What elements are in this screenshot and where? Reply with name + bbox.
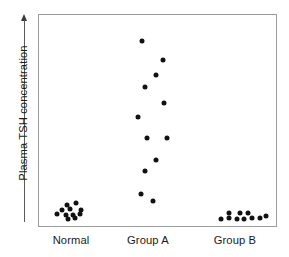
data-point <box>150 199 155 204</box>
x-axis-labels: NormalGroup AGroup B <box>38 234 277 254</box>
y-axis-label: Plasma TSH concentration <box>17 13 29 213</box>
data-point <box>67 207 72 212</box>
data-point <box>140 38 145 43</box>
data-point <box>161 101 166 106</box>
scatter-plot-figure: Plasma TSH concentration NormalGroup AGr… <box>0 0 289 257</box>
y-axis-group: Plasma TSH concentration <box>0 0 38 227</box>
data-point <box>164 135 169 140</box>
data-point <box>235 217 240 222</box>
data-point <box>242 217 247 222</box>
data-point <box>145 135 150 140</box>
plot-frame <box>38 14 277 227</box>
data-point <box>77 212 82 217</box>
data-point <box>154 73 159 78</box>
data-point <box>250 215 255 220</box>
data-point <box>160 57 165 62</box>
data-point <box>258 215 263 220</box>
data-point <box>136 115 141 120</box>
data-point <box>65 217 70 222</box>
data-point <box>218 217 223 222</box>
data-point <box>264 214 269 219</box>
x-tick-label-group-b: Group B <box>214 234 256 246</box>
data-point <box>143 85 148 90</box>
data-point <box>72 215 77 220</box>
x-tick-label-normal: Normal <box>53 234 90 246</box>
data-point <box>143 168 148 173</box>
plot-area <box>39 15 276 226</box>
data-point <box>238 211 243 216</box>
data-point <box>154 157 159 162</box>
data-point <box>139 192 144 197</box>
data-point <box>54 212 59 217</box>
data-point <box>227 215 232 220</box>
data-point <box>73 201 78 206</box>
x-tick-label-group-a: Group A <box>127 234 169 246</box>
